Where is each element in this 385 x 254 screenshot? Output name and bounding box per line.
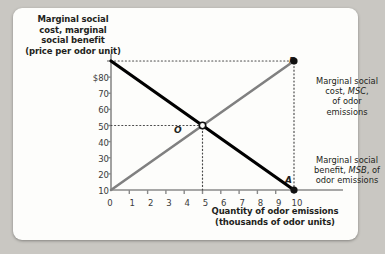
chart-plot <box>13 8 358 240</box>
data-point-B <box>290 57 297 64</box>
data-point-A <box>290 186 297 193</box>
data-point-O <box>199 122 205 128</box>
chart-card: Marginal social cost, marginal social be… <box>13 8 358 240</box>
annotation-msc-l2c: , <box>366 86 369 96</box>
annotation-msb-l2c: , of <box>367 165 380 175</box>
